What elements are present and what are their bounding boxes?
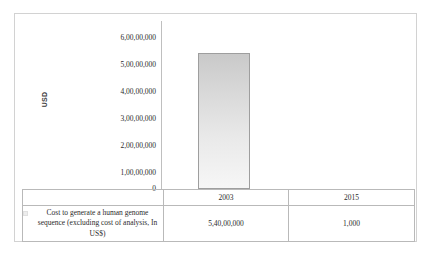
legend-series-label: Cost to generate a human genome sequence…	[32, 208, 163, 240]
table-value-2015: 1,000	[289, 206, 415, 242]
legend-swatch-icon	[23, 211, 28, 216]
bar-slot-2003	[162, 14, 286, 189]
y-axis-tick-label: 3,00,00,000	[120, 115, 156, 123]
table-header-row: 2003 2015	[23, 190, 415, 206]
y-axis-tick-label: 1,00,00,000	[120, 169, 156, 177]
table-column-header-2003: 2003	[164, 190, 289, 206]
bar-2003[interactable]	[198, 53, 250, 189]
y-axis-tick-label: 6,00,00,000	[120, 34, 156, 42]
y-axis-tick-label: 5,00,00,000	[120, 61, 156, 69]
table-row: Cost to generate a human genome sequence…	[23, 206, 415, 242]
y-axis-tick-labels: 6,00,00,000 5,00,00,000 4,00,00,000 3,00…	[47, 14, 160, 189]
plot-area: USD 6,00,00,000 5,00,00,000 4,00,00,000 …	[15, 14, 416, 189]
table-series-label-cell: Cost to generate a human genome sequence…	[23, 206, 164, 242]
table-column-header-2015: 2015	[289, 190, 415, 206]
table-corner-cell	[23, 190, 164, 206]
data-table: 2003 2015 Cost to generate a human genom…	[22, 189, 415, 242]
bar-slot-2015	[286, 14, 411, 189]
bars-container	[162, 14, 411, 189]
table-value-2003: 5,40,00,000	[164, 206, 289, 242]
y-axis-tick-label: 4,00,00,000	[120, 88, 156, 96]
y-axis-tick-label: 2,00,00,000	[120, 142, 156, 150]
chart-frame: USD 6,00,00,000 5,00,00,000 4,00,00,000 …	[14, 13, 417, 242]
